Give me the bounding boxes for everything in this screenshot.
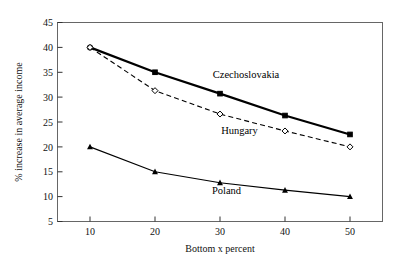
series-label-hungary: Hungary [221, 125, 258, 136]
line-chart: 5 10 15 20 25 30 35 40 45 10 20 30 40 50 [0, 0, 412, 267]
chart-figure: 5 10 15 20 25 30 35 40 45 10 20 30 40 50 [0, 0, 412, 267]
y-tick-label-40: 40 [43, 42, 53, 53]
data-point [347, 144, 353, 150]
y-axis-title: % increase in average income [13, 62, 24, 182]
series-czechoslovakia [87, 44, 352, 136]
series-annotations: CzechoslovakiaHungaryPoland [212, 69, 280, 195]
data-point [282, 128, 288, 134]
data-point [217, 111, 223, 117]
series-label-poland: Poland [212, 185, 242, 196]
y-tick-label-35: 35 [43, 67, 53, 78]
data-point [152, 88, 158, 94]
series-label-czechoslovakia: Czechoslovakia [213, 69, 280, 80]
x-tick-label-30: 30 [215, 226, 225, 237]
y-tick-label-20: 20 [43, 142, 53, 153]
x-axis-ticks [90, 217, 350, 222]
y-tick-label-10: 10 [43, 191, 53, 202]
y-tick-label-30: 30 [43, 92, 53, 103]
x-tick-label-20: 20 [150, 226, 160, 237]
data-point [153, 70, 158, 75]
x-tick-label-50: 50 [345, 226, 355, 237]
data-point [283, 113, 288, 118]
data-point [218, 91, 223, 96]
data-point [348, 132, 353, 137]
y-tick-label-25: 25 [43, 117, 53, 128]
y-tick-label-5: 5 [48, 216, 53, 227]
y-tick-label-15: 15 [43, 166, 53, 177]
x-axis-tick-labels: 10 20 30 40 50 [85, 226, 355, 237]
y-axis-ticks [58, 23, 63, 222]
x-tick-label-40: 40 [280, 226, 290, 237]
series-layer [87, 44, 353, 199]
x-axis-title: Bottom x percent [185, 243, 255, 254]
data-point [87, 144, 93, 150]
x-tick-label-10: 10 [85, 226, 95, 237]
y-tick-label-45: 45 [43, 17, 53, 28]
y-axis-tick-labels: 5 10 15 20 25 30 35 40 45 [43, 17, 53, 227]
series-hungary [87, 44, 353, 150]
